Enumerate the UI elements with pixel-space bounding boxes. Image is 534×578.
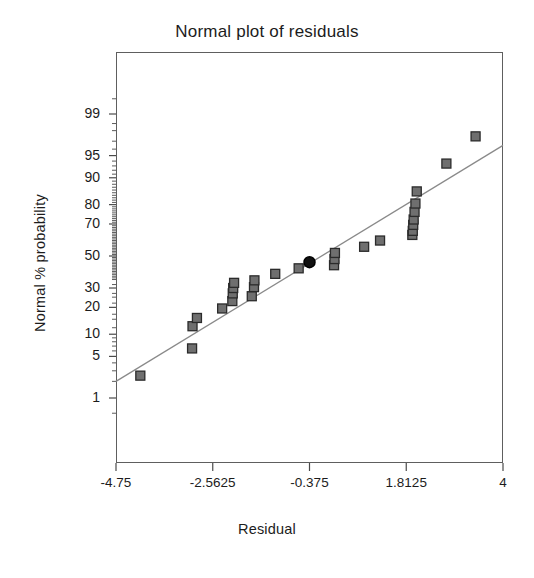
data-point — [471, 132, 480, 141]
data-point — [411, 199, 420, 208]
y-tick-label: 30 — [66, 279, 100, 295]
data-point — [271, 269, 280, 278]
data-point — [442, 159, 451, 168]
data-point — [247, 292, 256, 301]
highlighted-data-point — [304, 257, 315, 268]
x-tick-label: -0.375 — [265, 475, 355, 490]
x-tick-label: 1.8125 — [361, 475, 451, 490]
normal-probability-plot: Normal plot of residuals Normal % probab… — [0, 0, 534, 578]
y-axis-ticks — [109, 99, 116, 413]
data-point — [360, 242, 369, 251]
x-tick-label: -4.75 — [71, 475, 161, 490]
data-point — [412, 187, 421, 196]
data-points — [136, 132, 480, 380]
data-point — [330, 248, 339, 257]
x-tick-label: -2.5625 — [168, 475, 258, 490]
data-point — [230, 278, 239, 287]
y-tick-label: 10 — [66, 325, 100, 341]
data-point — [218, 304, 227, 313]
data-point — [192, 313, 201, 322]
y-tick-label: 50 — [66, 247, 100, 263]
y-tick-label: 80 — [66, 196, 100, 212]
y-tick-label: 99 — [66, 105, 100, 121]
y-tick-label: 90 — [66, 169, 100, 185]
y-tick-label: 95 — [66, 147, 100, 163]
y-tick-label: 1 — [66, 389, 100, 405]
y-tick-label: 70 — [66, 215, 100, 231]
data-point — [294, 264, 303, 273]
data-point — [188, 344, 197, 353]
x-tick-label: 4 — [458, 475, 534, 490]
data-point — [136, 371, 145, 380]
y-tick-label: 5 — [66, 347, 100, 363]
data-point — [376, 236, 385, 245]
x-axis-ticks — [116, 463, 503, 471]
data-point — [410, 207, 419, 216]
data-point — [250, 276, 259, 285]
y-tick-label: 20 — [66, 298, 100, 314]
